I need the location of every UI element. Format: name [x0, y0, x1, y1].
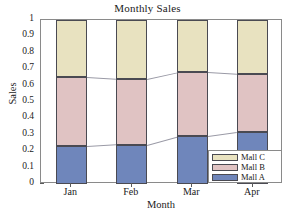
- y-tick-label: 0.1: [0, 162, 34, 171]
- bar-segment-mall-b[interactable]: [56, 77, 87, 146]
- bar-segment-mall-c[interactable]: [177, 20, 208, 72]
- legend-row: Mall B: [211, 163, 279, 172]
- legend-swatch-mall-a: [212, 174, 238, 181]
- y-tick-label: 0.5: [0, 96, 34, 105]
- stack-connector-line: [87, 77, 116, 80]
- chart-legend[interactable]: Mall C Mall B Mall A: [208, 150, 282, 183]
- y-tick-label: 0: [0, 178, 34, 187]
- bar-segment-mall-a[interactable]: [116, 145, 147, 184]
- stack-connector-line: [147, 136, 177, 145]
- y-tick-label: 0.2: [0, 145, 34, 154]
- bar-segment-mall-a[interactable]: [56, 146, 87, 184]
- bar-segment-mall-c[interactable]: [116, 20, 147, 79]
- legend-swatch-mall-b: [212, 164, 238, 171]
- y-tick-label: 0.3: [0, 129, 34, 138]
- bar-segment-mall-b[interactable]: [116, 79, 147, 145]
- bar-segment-mall-a[interactable]: [177, 136, 208, 184]
- chart-title: Monthly Sales: [0, 2, 295, 14]
- x-tick-mark: [70, 183, 71, 187]
- chart-figure: Monthly Sales Sales 10.90.80.70.60.50.40…: [0, 0, 295, 217]
- x-tick-label: Apr: [222, 186, 282, 197]
- legend-label-mall-a: Mall A: [241, 173, 265, 182]
- stack-connector-line: [208, 72, 237, 75]
- y-tick-label: 0.9: [0, 30, 34, 39]
- legend-label-mall-b: Mall B: [241, 163, 265, 172]
- legend-label-mall-c: Mall C: [241, 153, 265, 162]
- y-tick-mark: [40, 183, 44, 184]
- x-tick-label: Jan: [40, 186, 100, 197]
- bar-segment-mall-b[interactable]: [237, 74, 268, 132]
- bar-segment-mall-b[interactable]: [177, 72, 208, 136]
- y-tick-label: 1: [0, 14, 34, 23]
- legend-row: Mall A: [211, 173, 279, 182]
- y-tick-label: 0.6: [0, 80, 34, 89]
- x-tick-label: Mar: [161, 186, 221, 197]
- y-tick-label: 0.8: [0, 47, 34, 56]
- x-tick-mark: [252, 183, 253, 187]
- x-tick-label: Feb: [101, 186, 161, 197]
- legend-swatch-mall-c: [212, 154, 238, 161]
- stack-connector-line: [147, 72, 177, 80]
- x-tick-mark: [191, 183, 192, 187]
- bar-segment-mall-c[interactable]: [56, 20, 87, 77]
- stack-connector-line: [87, 145, 116, 148]
- y-tick-label: 0.4: [0, 112, 34, 121]
- stack-connector-line: [208, 132, 237, 137]
- legend-row: Mall C: [211, 153, 279, 162]
- bar-segment-mall-c[interactable]: [237, 20, 268, 74]
- y-tick-label: 0.7: [0, 63, 34, 72]
- x-axis-label: Month: [40, 199, 282, 210]
- x-tick-mark: [131, 183, 132, 187]
